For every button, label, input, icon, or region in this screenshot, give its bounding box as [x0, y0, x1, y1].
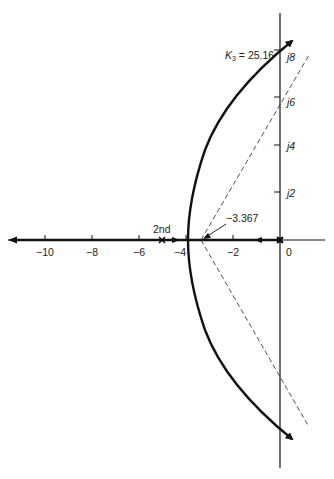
- centroid-label: −3.367: [226, 212, 259, 224]
- root-locus-diagram: −10 −8 −6 −4 −2 0 j8 j6 j4 j2 2nd −3.367…: [0, 0, 334, 479]
- tick-label-neg2: −2: [227, 246, 239, 258]
- second-pole-label: 2nd: [153, 223, 171, 235]
- tick-label-j4: j4: [285, 140, 295, 152]
- upper-locus-branch: [188, 41, 292, 240]
- pole-origin-square: [278, 238, 283, 243]
- lower-asymptote: [201, 240, 309, 427]
- lower-locus-branch: [188, 240, 292, 439]
- tick-label-j2: j2: [285, 187, 295, 199]
- gain-label-value: = 25.16: [236, 49, 274, 61]
- imag-axis-ticks: [274, 50, 280, 192]
- gain-label: K3 = 25.16: [225, 49, 274, 62]
- tick-label-neg8: −8: [86, 246, 98, 258]
- tick-label-j6: j6: [285, 96, 295, 108]
- tick-label-zero: 0: [286, 246, 292, 258]
- right-arrow-icon: [172, 237, 180, 243]
- tick-label-neg4: −4: [174, 246, 186, 258]
- centroid-pointer-arrow-icon: [203, 233, 211, 239]
- tick-label-j8: j8: [285, 51, 295, 63]
- tick-label-neg6: −6: [133, 246, 145, 258]
- left-arrow-small-icon: [254, 237, 262, 243]
- tick-label-neg10: −10: [36, 246, 54, 258]
- left-arrow-icon: [8, 237, 17, 244]
